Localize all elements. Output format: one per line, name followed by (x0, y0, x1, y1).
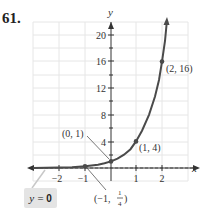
ytick-16: 16 (96, 56, 106, 67)
label-m1-suffix: ) (124, 193, 127, 205)
x-axis-arrow-left-icon (27, 165, 34, 171)
x-axis-label: x (191, 162, 197, 174)
label-1-4: (1, 4) (139, 142, 161, 154)
ytick-12: 12 (96, 83, 106, 94)
xtick-1: 1 (134, 173, 139, 184)
leader-m1 (87, 168, 106, 190)
y-axis-arrow-icon (108, 22, 114, 29)
xtick-2: 2 (160, 173, 165, 184)
curve-arrow-icon (164, 17, 170, 25)
asymptote-label: y = 0 (24, 188, 57, 208)
label-m1-prefix: (−1, (94, 193, 110, 205)
point-m1-quarter (83, 164, 88, 169)
label-0-1: (0, 1) (62, 128, 84, 140)
ytick-8: 8 (101, 110, 106, 121)
label-2-16: (2, 16) (166, 63, 193, 75)
xtick-m1: −1 (78, 173, 89, 184)
label-m1-num: 1 (118, 189, 122, 197)
point-2-16 (160, 59, 165, 64)
xtick-m2: −2 (52, 173, 63, 184)
leader-asymptote (32, 170, 45, 188)
ytick-4: 4 (101, 137, 106, 148)
ytick-20: 20 (96, 30, 106, 41)
point-0-1 (109, 159, 114, 164)
label-m1-den: 4 (118, 200, 122, 208)
y-axis-label: y (107, 6, 113, 18)
exponential-graph: y x 20 16 12 8 4 −2 −1 1 2 (2, 16) (1, 4… (0, 0, 206, 216)
point-1-4 (134, 139, 139, 144)
